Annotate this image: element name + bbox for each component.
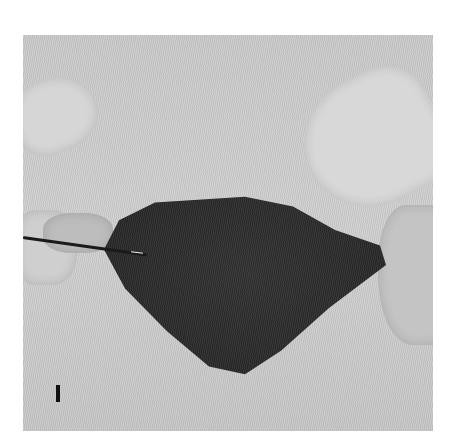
panel-label-marker [56, 385, 60, 402]
finger-top-left [23, 65, 108, 165]
finger-right-top [281, 50, 433, 231]
dark-tissue-mass [95, 187, 395, 382]
photograph [23, 35, 433, 431]
finger-right-lower [378, 205, 433, 345]
